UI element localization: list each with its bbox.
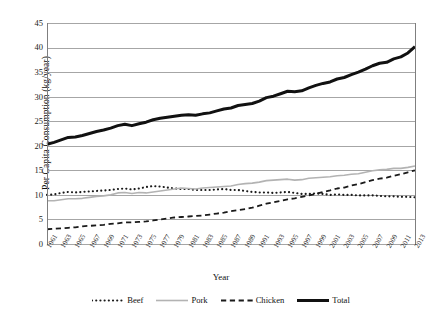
y-tick-label: 15 [3, 166, 43, 175]
legend-label: Total [332, 296, 350, 305]
y-tick-label: 40 [3, 43, 43, 52]
legend-item-beef[interactable]: Beef [92, 296, 143, 305]
x-axis-title: Year [0, 272, 442, 282]
legend-label: Chicken [256, 296, 285, 305]
y-axis-line [47, 23, 48, 245]
legend-swatch-beef [92, 297, 124, 304]
y-tick-label: 20 [3, 142, 43, 151]
legend-swatch-total [297, 297, 329, 304]
y-tick-label: 5 [3, 215, 43, 224]
chart-legend: BeefPorkChickenTotal [0, 296, 442, 305]
y-tick-label: 45 [3, 19, 43, 28]
series-lines [47, 23, 415, 244]
plot-area [47, 23, 415, 244]
x-tick-label: 2013 [414, 234, 427, 250]
legend-item-chicken[interactable]: Chicken [221, 296, 285, 305]
y-tick-label: 25 [3, 117, 43, 126]
y-tick-label: 0 [3, 240, 43, 249]
legend-label: Beef [127, 296, 143, 305]
series-line-chicken [47, 170, 415, 229]
series-line-total [47, 47, 415, 145]
line-chart: Per Capita Consumption (kg/year) 0510152… [0, 0, 442, 324]
legend-item-pork[interactable]: Pork [156, 296, 207, 305]
legend-item-total[interactable]: Total [297, 296, 350, 305]
y-tick-label: 10 [3, 191, 43, 200]
legend-label: Pork [191, 296, 207, 305]
legend-swatch-chicken [221, 297, 253, 304]
y-tick-label: 30 [3, 93, 43, 102]
y-tick-label: 35 [3, 68, 43, 77]
legend-swatch-pork [156, 297, 188, 304]
plot-right-border [415, 23, 416, 245]
